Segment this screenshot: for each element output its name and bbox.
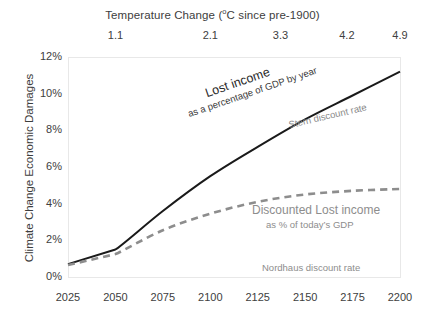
- plot-area: [0, 0, 425, 319]
- annotation-discounted-lost-income-title: Discounted Lost income: [252, 203, 380, 217]
- annotation-discounted-lost-income-subtitle: as % of today’s GDP: [266, 219, 353, 230]
- chart-figure: Temperature Change (oC since pre-1900) 1…: [0, 0, 425, 319]
- annotation-nordhaus-discount-rate: Nordhaus discount rate: [262, 262, 360, 273]
